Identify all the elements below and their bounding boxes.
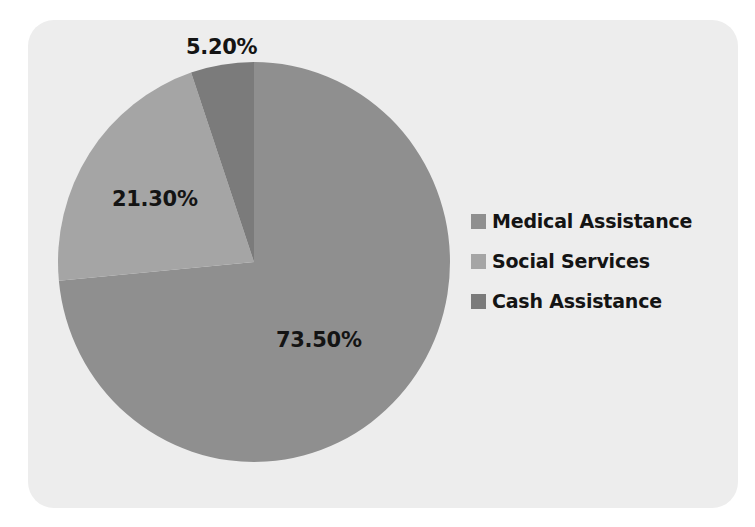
legend-swatch-medical [471,214,486,229]
label-medical-assistance: 73.50% [276,328,362,352]
legend-swatch-social [471,254,486,269]
legend-item-social-services: Social Services [471,241,692,281]
label-social-services: 21.30% [112,187,198,211]
legend: Medical Assistance Social Services Cash … [471,201,692,321]
legend-swatch-cash [471,294,486,309]
label-cash-assistance: 5.20% [186,35,257,59]
legend-item-medical-assistance: Medical Assistance [471,201,692,241]
legend-item-cash-assistance: Cash Assistance [471,281,692,321]
